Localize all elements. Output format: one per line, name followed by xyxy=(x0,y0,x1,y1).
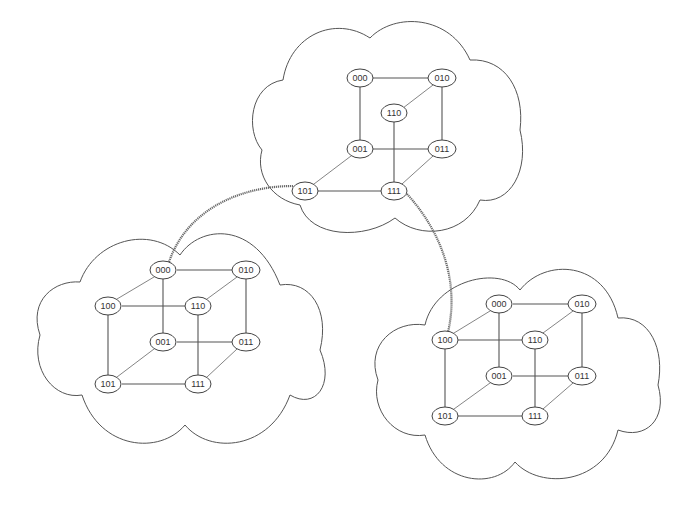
svg-text:101: 101 xyxy=(100,379,115,389)
node-top-011[interactable]: 011 xyxy=(428,140,456,158)
node-left-110[interactable]: 110 xyxy=(185,297,211,315)
cloud-left-outline xyxy=(37,234,325,443)
node-right-100[interactable]: 100 xyxy=(432,331,458,349)
svg-text:101: 101 xyxy=(437,411,452,421)
cloud-right xyxy=(375,269,661,479)
node-left-100[interactable]: 100 xyxy=(95,297,121,315)
svg-text:100: 100 xyxy=(437,335,452,345)
cloud-top xyxy=(252,22,522,233)
node-left-111[interactable]: 111 xyxy=(185,375,211,393)
svg-text:001: 001 xyxy=(155,337,170,347)
svg-text:000: 000 xyxy=(491,299,506,309)
svg-text:110: 110 xyxy=(387,108,401,118)
svg-text:100: 100 xyxy=(100,301,115,311)
node-top-101[interactable]: 101 xyxy=(292,182,318,200)
svg-text:111: 111 xyxy=(528,411,542,421)
node-top-010[interactable]: 010 xyxy=(428,69,456,87)
svg-text:001: 001 xyxy=(352,144,367,154)
node-top-001[interactable]: 001 xyxy=(347,140,373,158)
node-right-101[interactable]: 101 xyxy=(432,407,458,425)
svg-text:000: 000 xyxy=(155,265,170,275)
svg-text:011: 011 xyxy=(575,371,589,381)
node-left-011[interactable]: 011 xyxy=(232,333,260,351)
node-right-111[interactable]: 111 xyxy=(522,407,548,425)
node-right-110[interactable]: 110 xyxy=(522,331,548,349)
svg-text:010: 010 xyxy=(434,73,449,83)
svg-text:111: 111 xyxy=(387,186,401,196)
node-right-011[interactable]: 011 xyxy=(568,367,596,385)
cloud-right-outline xyxy=(375,269,661,479)
hypercube-network-diagram: 000 010 110 001 011 101 111 000 010 100 … xyxy=(0,0,691,512)
cloud-left xyxy=(37,234,325,443)
node-top-000[interactable]: 000 xyxy=(347,69,373,87)
svg-text:111: 111 xyxy=(191,379,205,389)
svg-text:110: 110 xyxy=(528,335,542,345)
node-left-101[interactable]: 101 xyxy=(95,375,121,393)
node-right-000[interactable]: 000 xyxy=(486,295,512,313)
node-top-111[interactable]: 111 xyxy=(381,182,407,200)
svg-text:001: 001 xyxy=(491,371,506,381)
node-left-010[interactable]: 010 xyxy=(232,261,260,279)
node-left-000[interactable]: 000 xyxy=(150,261,176,279)
cloud-top-outline xyxy=(252,22,522,233)
svg-text:101: 101 xyxy=(297,186,312,196)
svg-text:010: 010 xyxy=(238,265,253,275)
node-top-110[interactable]: 110 xyxy=(381,104,407,122)
node-left-001[interactable]: 001 xyxy=(150,333,176,351)
node-right-001[interactable]: 001 xyxy=(486,367,512,385)
svg-text:000: 000 xyxy=(352,73,367,83)
svg-text:110: 110 xyxy=(191,301,205,311)
svg-text:010: 010 xyxy=(574,299,589,309)
svg-text:011: 011 xyxy=(239,337,253,347)
node-right-010[interactable]: 010 xyxy=(568,295,596,313)
svg-text:011: 011 xyxy=(435,144,449,154)
